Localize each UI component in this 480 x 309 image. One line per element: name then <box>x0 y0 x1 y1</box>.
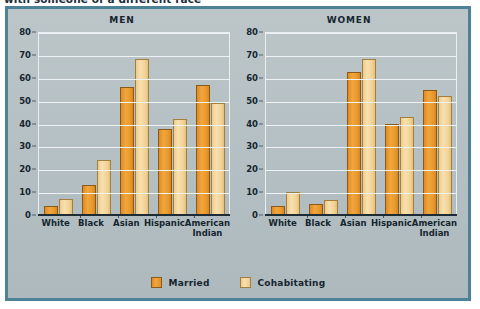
x-label: Black <box>300 218 335 238</box>
figure-caption: with someone of a different race <box>4 0 474 5</box>
gridline <box>266 147 456 148</box>
bar-cohabitating-american-indian[interactable] <box>211 103 225 215</box>
y-tick-mark <box>259 169 263 170</box>
gridline <box>39 79 229 80</box>
bar-cohabitating-black[interactable] <box>324 200 338 215</box>
gridline <box>266 102 456 103</box>
x-label: Hispanic <box>371 218 412 238</box>
bar-cohabitating-american-indian[interactable] <box>438 96 452 215</box>
gridline <box>266 79 456 80</box>
chart-title-men: MEN <box>10 15 234 25</box>
x-label: White <box>265 218 300 238</box>
bar-married-american-indian[interactable] <box>423 90 437 215</box>
x-labels-women: WhiteBlackAsianHispanicAmericanIndian <box>265 218 457 238</box>
gridline <box>266 56 456 57</box>
y-tick-mark <box>259 32 263 33</box>
y-tick-mark <box>32 123 36 124</box>
y-tick-label: 50 <box>246 96 258 105</box>
gridline <box>266 125 456 126</box>
y-tick-mark <box>259 192 263 193</box>
gridline <box>266 170 456 171</box>
y-tick-label: 80 <box>19 28 31 37</box>
y-tick-label: 40 <box>19 119 31 128</box>
legend-item-cohabitating[interactable]: Cohabitating <box>240 277 326 288</box>
x-axis-line-women <box>265 214 457 216</box>
x-label: Hispanic <box>144 218 185 238</box>
bar-cohabitating-asian[interactable] <box>362 59 376 215</box>
x-labels-men: WhiteBlackAsianHispanicAmericanIndian <box>38 218 230 238</box>
legend-item-married[interactable]: Married <box>151 277 210 288</box>
x-label: Asian <box>109 218 144 238</box>
bar-married-american-indian[interactable] <box>196 85 210 215</box>
bar-married-black[interactable] <box>82 185 96 215</box>
bar-cohabitating-white[interactable] <box>286 192 300 215</box>
chart-legend: MarriedCohabitating <box>8 277 468 288</box>
bar-cohabitating-black[interactable] <box>97 160 111 215</box>
gridline <box>39 170 229 171</box>
y-tick-mark <box>32 100 36 101</box>
y-tick-mark <box>259 77 263 78</box>
y-axis-women: 01020304050607080 <box>237 32 263 215</box>
y-tick-mark <box>32 192 36 193</box>
y-tick-label: 60 <box>246 74 258 83</box>
x-label: White <box>38 218 73 238</box>
x-axis-line-men <box>38 214 230 216</box>
chart-title-women: WOMEN <box>237 15 461 25</box>
y-tick-mark <box>259 146 263 147</box>
y-tick-label: 50 <box>19 96 31 105</box>
y-tick-label: 70 <box>19 51 31 60</box>
bar-cohabitating-hispanic[interactable] <box>400 117 414 215</box>
x-label: Black <box>73 218 108 238</box>
gridline <box>266 193 456 194</box>
y-tick-label: 0 <box>252 211 258 220</box>
y-tick-label: 10 <box>246 188 258 197</box>
y-tick-mark <box>32 146 36 147</box>
x-label: Asian <box>336 218 371 238</box>
x-label: AmericanIndian <box>185 218 230 238</box>
bar-married-hispanic[interactable] <box>385 124 399 216</box>
y-tick-label: 20 <box>246 165 258 174</box>
bar-cohabitating-white[interactable] <box>59 199 73 215</box>
gridline <box>39 56 229 57</box>
y-tick-mark <box>32 169 36 170</box>
y-tick-mark <box>32 54 36 55</box>
y-tick-label: 30 <box>19 142 31 151</box>
y-tick-mark <box>259 215 263 216</box>
y-tick-label: 40 <box>246 119 258 128</box>
bar-cohabitating-hispanic[interactable] <box>173 119 187 215</box>
bar-cohabitating-asian[interactable] <box>135 59 149 215</box>
y-tick-label: 10 <box>19 188 31 197</box>
legend-swatch-married <box>151 277 162 288</box>
gridline <box>39 33 229 34</box>
chart-men: MEN 01020304050607080 WhiteBlackAsianHis… <box>10 15 234 255</box>
gridline <box>266 33 456 34</box>
chart-women: WOMEN 01020304050607080 WhiteBlackAsianH… <box>237 15 461 255</box>
legend-label-married: Married <box>169 278 210 288</box>
y-tick-mark <box>259 54 263 55</box>
y-tick-mark <box>259 123 263 124</box>
bar-married-asian[interactable] <box>120 87 134 215</box>
legend-label-cohabitating: Cohabitating <box>258 278 326 288</box>
legend-swatch-cohabitating <box>240 277 251 288</box>
y-tick-label: 60 <box>19 74 31 83</box>
plot-area-men <box>38 32 230 215</box>
y-tick-label: 80 <box>246 28 258 37</box>
chart-panel: MEN 01020304050607080 WhiteBlackAsianHis… <box>5 6 471 301</box>
y-tick-mark <box>32 77 36 78</box>
x-label: AmericanIndian <box>412 218 457 238</box>
plot-area-women <box>265 32 457 215</box>
y-tick-label: 70 <box>246 51 258 60</box>
y-tick-mark <box>32 32 36 33</box>
bar-married-hispanic[interactable] <box>158 129 172 215</box>
gridline <box>39 193 229 194</box>
gridline <box>39 125 229 126</box>
y-tick-mark <box>259 100 263 101</box>
y-tick-label: 20 <box>19 165 31 174</box>
gridline <box>39 102 229 103</box>
y-tick-mark <box>32 215 36 216</box>
y-tick-label: 30 <box>246 142 258 151</box>
y-tick-label: 0 <box>25 211 31 220</box>
gridline <box>39 147 229 148</box>
y-axis-men: 01020304050607080 <box>10 32 36 215</box>
